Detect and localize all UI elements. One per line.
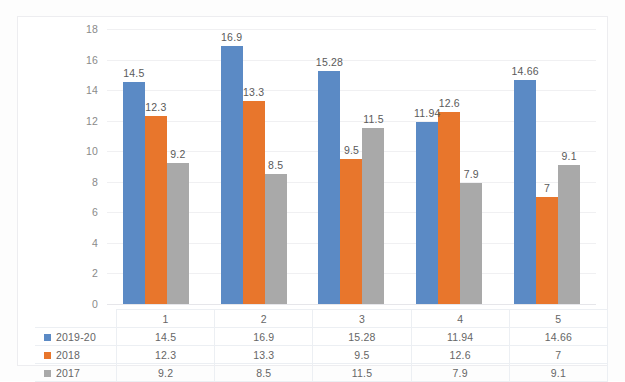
y-axis-tick-2: 2	[92, 267, 98, 279]
table-cell-2019-20-4: 11.94	[411, 328, 509, 346]
table-row: 2019-2014.516.915.2811.9414.66	[35, 328, 608, 346]
table-cell-2017-2: 8.5	[215, 364, 313, 382]
gridline-0	[107, 304, 596, 305]
table-column-header-5: 5	[509, 310, 607, 328]
bar-2017-1[interactable]	[167, 163, 189, 304]
chart-frame: 024681012141618 14.512.39.216.913.38.515…	[17, 16, 608, 366]
y-axis-tick-6: 6	[92, 206, 98, 218]
bar-2018-4[interactable]	[438, 112, 460, 305]
bar-2017-2[interactable]	[265, 174, 287, 304]
table-cell-2018-1: 12.3	[117, 346, 215, 364]
bar-2017-3[interactable]	[362, 128, 384, 304]
table-cell-2018-2: 13.3	[215, 346, 313, 364]
bar-2017-4[interactable]	[460, 183, 482, 304]
bar-2018-5[interactable]	[536, 197, 558, 304]
table-cell-2017-5: 9.1	[509, 364, 607, 382]
bar-group-1	[107, 29, 205, 304]
bar-group-2	[205, 29, 303, 304]
table-cell-2017-3: 11.5	[313, 364, 411, 382]
bar-2019-20-4[interactable]	[416, 122, 438, 304]
y-axis-tick-4: 4	[92, 237, 98, 249]
legend-item-2017[interactable]: 2017	[35, 364, 117, 382]
bar-2017-5[interactable]	[558, 165, 580, 304]
bar-2019-20-3[interactable]	[318, 71, 340, 304]
bar-label-2018-1: 12.3	[145, 101, 166, 113]
y-axis-tick-18: 18	[86, 23, 98, 35]
bar-label-2017-2: 8.5	[268, 159, 283, 171]
legend-swatch-icon	[44, 370, 51, 377]
bar-2018-1[interactable]	[145, 116, 167, 304]
bar-label-2019-20-3: 15.28	[316, 56, 343, 68]
table-corner-cell	[35, 310, 117, 328]
table-cell-2019-20-5: 14.66	[509, 328, 607, 346]
table-cell-2018-3: 9.5	[313, 346, 411, 364]
table-cell-2017-4: 7.9	[411, 364, 509, 382]
table-column-header-2: 2	[215, 310, 313, 328]
table-cell-2018-5: 7	[509, 346, 607, 364]
bar-label-2017-4: 7.9	[464, 168, 479, 180]
bar-label-2018-3: 9.5	[344, 144, 359, 156]
bar-label-2018-2: 13.3	[243, 86, 264, 98]
table-column-header-1: 1	[117, 310, 215, 328]
table-column-header-3: 3	[313, 310, 411, 328]
bar-group-4	[400, 29, 498, 304]
bar-label-2019-20-2: 16.9	[221, 31, 242, 43]
legend-swatch-icon	[44, 334, 51, 341]
table-row: 201812.313.39.512.67	[35, 346, 608, 364]
table-column-header-4: 4	[411, 310, 509, 328]
y-axis-tick-8: 8	[92, 176, 98, 188]
bar-2018-2[interactable]	[243, 101, 265, 304]
legend-swatch-icon	[44, 352, 51, 359]
data-table: 123452019-2014.516.915.2811.9414.6620181…	[35, 309, 608, 382]
plot-area: 024681012141618 14.512.39.216.913.38.515…	[107, 29, 596, 304]
legend-item-2019-20[interactable]: 2019-20	[35, 328, 117, 346]
table-header-row: 12345	[35, 310, 608, 328]
bar-label-2017-3: 11.5	[363, 113, 383, 125]
y-axis-tick-14: 14	[86, 84, 98, 96]
table-cell-2019-20-1: 14.5	[117, 328, 215, 346]
y-axis-tick-10: 10	[86, 145, 98, 157]
table-row: 20179.28.511.57.99.1	[35, 364, 608, 382]
legend-label: 2018	[56, 349, 80, 361]
bar-label-2017-5: 9.1	[561, 150, 576, 162]
table-cell-2018-4: 12.6	[411, 346, 509, 364]
y-axis-tick-12: 12	[86, 115, 98, 127]
bar-label-2018-4: 12.6	[439, 97, 460, 109]
bar-2018-3[interactable]	[340, 159, 362, 304]
legend-item-2018[interactable]: 2018	[35, 346, 117, 364]
table-cell-2017-1: 9.2	[117, 364, 215, 382]
bar-label-2018-5: 7	[544, 182, 550, 194]
y-axis-tick-16: 16	[86, 54, 98, 66]
table-cell-2019-20-2: 16.9	[215, 328, 313, 346]
bar-2019-20-1[interactable]	[123, 82, 145, 304]
bar-group-3	[303, 29, 401, 304]
bar-label-2017-1: 9.2	[170, 148, 185, 160]
bar-label-2019-20-1: 14.5	[123, 67, 144, 79]
bar-label-2019-20-5: 14.66	[511, 65, 538, 77]
bar-2019-20-5[interactable]	[514, 80, 536, 304]
bar-2019-20-2[interactable]	[221, 46, 243, 304]
table-cell-2019-20-3: 15.28	[313, 328, 411, 346]
legend-label: 2019-20	[56, 331, 96, 343]
legend-label: 2017	[56, 367, 80, 379]
bar-label-2019-20-4: 11.94	[414, 107, 441, 119]
